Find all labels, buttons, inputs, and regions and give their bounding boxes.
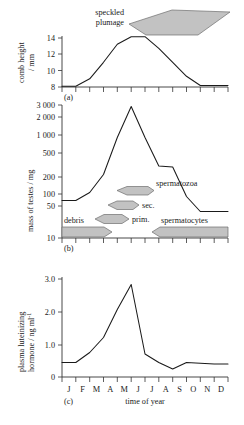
panel-a-ytick-12: 12 [47, 50, 55, 59]
panel-c-y-ticks [58, 279, 62, 377]
panel-c-xlabel: time of year [125, 397, 165, 406]
panel-b-ytick-100: 100 [43, 190, 55, 199]
month-label-jan: J [67, 385, 71, 394]
secondary-label: sec. [142, 201, 155, 210]
month-label-mar: M [93, 385, 101, 394]
panel-a-y-ticks [58, 38, 62, 87]
plumage-lens-shape [129, 10, 230, 35]
panel-a-label: (a) [64, 93, 73, 102]
panel-c-ytick-1: 1.0 [45, 341, 55, 350]
month-labels: J F M A M J J A S O N D [67, 385, 224, 394]
panel-a-ylabel: comb height / mm [17, 42, 36, 83]
plumage-label-line2: plumage [96, 18, 125, 27]
plumage-label-line1: speckled [95, 8, 124, 17]
month-label-jun: J [136, 385, 140, 394]
panel-b-x-ticks [62, 238, 228, 243]
panel-c: plasma luteinizing hormone / ng ml-1 3.0… [17, 275, 228, 406]
primary-spermatocyte-blob [95, 215, 129, 224]
panel-b-ytick-3000: 3 000 [37, 101, 55, 110]
panel-a-axes [62, 36, 228, 87]
panel-b-ytick-50: 50 [47, 202, 55, 211]
luteinizing-hormone-curve [62, 285, 228, 370]
panel-b: mass of testes / mg 3 000 2 000 1 000 50… [26, 101, 228, 253]
panel-c-ylabel-line1: plasma luteinizing [17, 312, 26, 372]
panel-c-ytick-0: 0 [51, 373, 55, 382]
debris-bar [62, 227, 112, 237]
month-label-may: M [120, 385, 128, 394]
month-label-nov: N [204, 385, 210, 394]
panel-b-y-ticks [58, 105, 62, 238]
month-label-apr: A [107, 385, 113, 394]
panel-a-ytick-10: 10 [47, 67, 55, 76]
seasonal-reproduction-figure: speckled plumage comb height / mm 14 12 … [0, 0, 244, 425]
panel-c-axes [62, 277, 228, 377]
panel-b-ylabel: mass of testes / mg [26, 170, 35, 232]
spermatocytes-label: spermatocytes [161, 216, 208, 225]
month-label-oct: O [190, 385, 196, 394]
primary-label: prim. [132, 215, 150, 224]
panel-c-ylabel: plasma luteinizing hormone / ng ml-1 [17, 312, 36, 372]
month-label-aug: A [163, 385, 169, 394]
panel-a: speckled plumage comb height / mm 14 12 … [17, 8, 230, 102]
stage-annotations: spermatozoa sec. prim. debris spermatocy… [62, 179, 228, 237]
month-label-dec: D [218, 385, 224, 394]
plumage-annotation: speckled plumage [95, 8, 230, 35]
month-label-feb: F [80, 385, 85, 394]
panel-c-ylabel-line2: hormone / ng ml-1 [26, 313, 36, 372]
panel-b-ytick-1000: 1 000 [37, 131, 55, 140]
month-label-jul: J [150, 385, 154, 394]
month-label-sep: S [177, 385, 182, 394]
panel-b-ytick-10: 10 [47, 234, 55, 243]
panel-a-ytick-14: 14 [47, 34, 55, 43]
figure-svg: speckled plumage comb height / mm 14 12 … [0, 0, 244, 425]
secondary-spermatocyte-blob [108, 201, 139, 210]
panel-c-ytick-3: 3.0 [45, 275, 55, 284]
spermatocytes-bar [152, 227, 228, 237]
panel-a-x-ticks [62, 87, 228, 92]
panel-a-ylabel-line2: / mm [27, 53, 36, 71]
panel-c-x-ticks [62, 377, 228, 382]
testes-mass-curve [62, 107, 228, 212]
comb-height-curve [62, 37, 228, 86]
spermatozoa-label: spermatozoa [156, 179, 198, 188]
panel-a-y-tick-labels: 14 12 10 8 [47, 34, 55, 92]
panel-a-ytick-8: 8 [51, 83, 55, 92]
panel-b-ytick-200: 200 [43, 173, 55, 182]
panel-b-y-tick-labels: 3 000 2 000 1 000 500 200 100 50 10 [37, 101, 55, 243]
panel-a-ylabel-line1: comb height [17, 42, 26, 83]
panel-c-y-tick-labels: 3.0 2.0 1.0 0 [45, 275, 55, 382]
debris-label: debris [64, 216, 84, 225]
panel-c-label: (c) [64, 397, 73, 406]
panel-b-ytick-500: 500 [43, 149, 55, 158]
panel-b-label: (b) [64, 244, 74, 253]
panel-c-ytick-2: 2.0 [45, 308, 55, 317]
spermatozoa-blob [117, 187, 154, 196]
panel-b-ytick-2000: 2 000 [37, 113, 55, 122]
